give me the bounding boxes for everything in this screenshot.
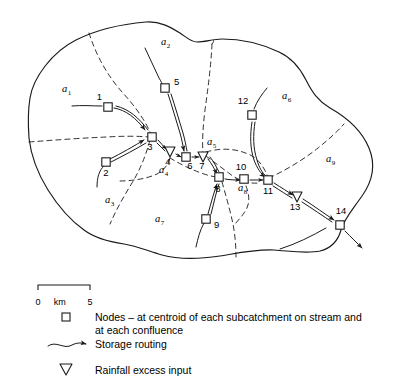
node-4[interactable]: 4: [165, 147, 175, 167]
legend-arrow-curve-icon: [48, 343, 86, 346]
divide-a1-a2: [89, 33, 151, 134]
divide-a2-a6-top: [212, 40, 214, 44]
node-14[interactable]: 14: [336, 205, 347, 229]
node-label-4: 4: [165, 156, 170, 167]
stream-tail-9: [196, 223, 204, 247]
legend-storage-routing-label: Storage routing: [95, 338, 167, 350]
scale-bar: 0 km 5: [35, 285, 92, 307]
subcatchment-label-a5: a5: [207, 136, 217, 150]
node-label-14: 14: [336, 205, 347, 216]
scale-label-right: 5: [87, 297, 92, 307]
node-6[interactable]: 6: [182, 153, 193, 171]
node-square-icon: [161, 84, 169, 92]
node-label-2: 2: [103, 167, 108, 178]
divide-a4-a8: [170, 158, 218, 177]
subcatchment-label-a2: a2: [161, 36, 171, 50]
node-square-icon: [336, 221, 344, 229]
legend-square-outline-icon: [62, 313, 70, 321]
divide-a1-a3: [29, 136, 149, 142]
subcatchment-subscript-a3: 3: [111, 200, 115, 208]
stream-tail-14: [280, 228, 326, 249]
node-3[interactable]: 3: [147, 133, 156, 152]
subcatchment-subscript-a1: 1: [68, 89, 72, 97]
stream-12-11-b: [254, 122, 266, 176]
node-square-icon: [264, 176, 272, 184]
legend: Nodes – at centroid of each subcatchment…: [48, 311, 362, 376]
subcatchment-subscript-a4: 4: [165, 170, 169, 178]
node-label-10: 10: [236, 161, 247, 172]
subcatchment-label-a6: a6: [282, 90, 292, 104]
catchment-boundary: [28, 22, 372, 259]
stream-2-3-b: [111, 143, 146, 162]
node-12[interactable]: 12: [238, 95, 256, 119]
node-square-icon: [215, 173, 223, 181]
stream-4-6: [176, 154, 181, 157]
node-13[interactable]: 13: [290, 192, 302, 212]
node-1[interactable]: 1: [97, 91, 112, 111]
subcatchment-label-a3: a3: [105, 194, 115, 208]
node-label-5: 5: [174, 76, 179, 87]
legend-nodes-line2: at each confluence: [95, 324, 183, 336]
subcatchment-subscript-a8: 8: [244, 188, 248, 196]
divide-a8-a7: [222, 182, 236, 257]
node-11[interactable]: 11: [263, 176, 273, 196]
node-7[interactable]: 7: [198, 152, 208, 171]
node-label-7: 7: [199, 160, 204, 171]
subcatchment-label-a8: a8: [238, 182, 248, 196]
legend-rainfall-excess-label: Rainfall excess input: [95, 364, 191, 376]
node-square-icon: [102, 158, 110, 166]
node-5[interactable]: 5: [161, 76, 179, 92]
divide-a5-a8: [206, 156, 258, 183]
catchment-diagram: 1234567891011121314 a1a2a3a4a5a6a7a8a9 0…: [0, 0, 408, 388]
subcatchment-label-a1: a1: [62, 83, 72, 97]
node-2[interactable]: 2: [102, 158, 110, 178]
node-label-11: 11: [263, 185, 273, 196]
node-label-3: 3: [147, 141, 152, 152]
scale-bar-line: [38, 285, 90, 290]
node-9[interactable]: 9: [202, 215, 219, 230]
node-label-8: 8: [215, 183, 220, 194]
legend-nodes-line1: Nodes – at centroid of each subcatchment…: [95, 311, 362, 323]
node-square-icon: [202, 215, 210, 223]
subcatchment-label-a7: a7: [155, 213, 165, 227]
subcatchment-subscript-a5: 5: [213, 142, 217, 150]
subcatchment-subscript-a9: 9: [332, 159, 336, 167]
node-square-icon: [248, 111, 256, 119]
catchment-boundary-group: [28, 22, 372, 259]
subcatchment-subscript-a7: 7: [161, 219, 165, 227]
stream-13-14-b: [302, 202, 332, 222]
scale-label-unit: km: [54, 297, 66, 307]
node-square-icon: [148, 133, 156, 141]
node-label-12: 12: [238, 95, 249, 106]
subcatchment-subscript-a2: 2: [167, 42, 171, 50]
stream-head-5: [145, 48, 163, 86]
stream-12-11: [251, 122, 265, 177]
node-label-6: 6: [187, 160, 192, 171]
stream-5-6: [168, 94, 184, 151]
subcatchment-subscript-a6: 6: [288, 96, 292, 104]
node-label-1: 1: [97, 91, 102, 102]
stream-2-3: [110, 140, 144, 159]
node-square-icon: [104, 103, 112, 111]
subcatchment-label-a9: a9: [326, 153, 336, 167]
divide-a6-a9: [269, 124, 344, 178]
stream-13-14: [303, 199, 334, 220]
stream-5-6-b: [171, 94, 187, 151]
node-label-13: 13: [290, 201, 301, 212]
stream-outflow: [345, 231, 362, 248]
scale-label-left: 0: [35, 297, 40, 307]
legend-triangle-down-icon: [60, 364, 72, 375]
node-label-9: 9: [214, 219, 219, 230]
stream-tail-12: [254, 88, 267, 109]
